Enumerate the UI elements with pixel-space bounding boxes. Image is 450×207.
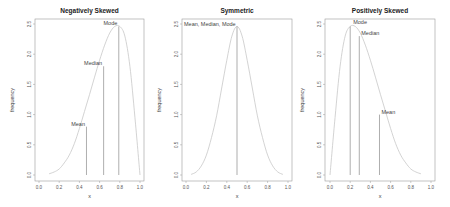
x-axis-label: x xyxy=(379,193,382,199)
annotation-label: Mode xyxy=(104,20,118,26)
x-tick-label: 0.6 xyxy=(244,185,251,190)
panel-title: Negatively Skewed xyxy=(60,7,119,15)
panel-1: Negatively Skewed0.00.20.40.60.81.00.00.… xyxy=(9,7,144,199)
x-tick-label: 1.0 xyxy=(285,185,292,190)
annotation-label: Mean, Median, Mode xyxy=(184,21,236,27)
y-tick-label: 2.0 xyxy=(174,51,179,58)
x-tick-label: 0.0 xyxy=(36,185,43,190)
density-curve xyxy=(330,25,421,175)
panel-3: Positively Skewed0.00.20.40.60.81.00.00.… xyxy=(299,7,435,199)
y-tick-label: 0.5 xyxy=(317,141,322,148)
x-tick-label: 0.8 xyxy=(408,185,415,190)
x-tick-label: 0.2 xyxy=(56,185,63,190)
y-tick-label: 2.5 xyxy=(317,20,322,27)
x-tick-label: 0.4 xyxy=(76,185,83,190)
y-axis-label: frequency xyxy=(9,88,15,112)
y-axis-label: frequency xyxy=(299,88,305,112)
annotation-label: Mean xyxy=(381,109,395,115)
x-tick-label: 0.2 xyxy=(203,185,210,190)
y-tick-label: 1.0 xyxy=(317,111,322,118)
panel-title: Symmetric xyxy=(220,7,254,15)
y-axis-label: frequency xyxy=(156,88,162,112)
plot-box xyxy=(325,19,435,181)
y-tick-label: 1.0 xyxy=(174,111,179,118)
annotation-label: Median xyxy=(361,30,379,36)
y-tick-label: 0.0 xyxy=(317,171,322,178)
y-tick-label: 0.5 xyxy=(174,141,179,148)
x-axis-label: x xyxy=(88,193,91,199)
y-tick-label: 2.5 xyxy=(174,20,179,27)
x-tick-label: 1.0 xyxy=(137,185,144,190)
y-tick-label: 0.5 xyxy=(27,141,32,148)
x-tick-label: 0.4 xyxy=(367,185,374,190)
x-tick-label: 0.0 xyxy=(183,185,190,190)
plot-box xyxy=(35,19,144,181)
y-tick-label: 0.0 xyxy=(174,171,179,178)
panel-title: Positively Skewed xyxy=(352,7,408,15)
x-axis-label: x xyxy=(236,193,239,199)
y-tick-label: 2.0 xyxy=(317,51,322,58)
y-tick-label: 2.0 xyxy=(27,51,32,58)
x-tick-label: 0.2 xyxy=(347,185,354,190)
x-tick-label: 0.6 xyxy=(96,185,103,190)
x-tick-label: 0.8 xyxy=(117,185,124,190)
y-tick-label: 1.5 xyxy=(27,81,32,88)
y-tick-label: 1.5 xyxy=(317,81,322,88)
panel-2: Symmetric0.00.20.40.60.81.00.00.51.01.52… xyxy=(156,7,292,199)
x-tick-label: 1.0 xyxy=(428,185,435,190)
y-tick-label: 1.0 xyxy=(27,111,32,118)
y-tick-label: 2.5 xyxy=(27,20,32,27)
density-curve xyxy=(49,25,140,175)
x-tick-label: 0.8 xyxy=(264,185,271,190)
y-tick-label: 0.0 xyxy=(27,171,32,178)
x-tick-label: 0.4 xyxy=(224,185,231,190)
skewness-figure: Negatively Skewed0.00.20.40.60.81.00.00.… xyxy=(0,0,450,207)
annotation-label: Mean xyxy=(71,121,85,127)
y-tick-label: 1.5 xyxy=(174,81,179,88)
annotation-label: Median xyxy=(84,60,102,66)
annotation-label: Mode xyxy=(353,19,367,25)
x-tick-label: 0.0 xyxy=(327,185,334,190)
x-tick-label: 0.6 xyxy=(387,185,394,190)
